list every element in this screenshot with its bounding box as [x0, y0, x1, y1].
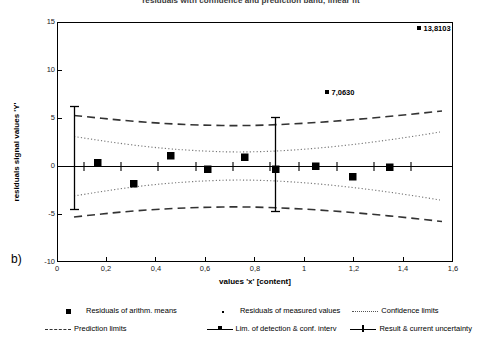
x-tick-label: 1 — [289, 264, 319, 273]
confidence-lower — [74, 180, 440, 200]
legend-item-confidence-limits[interactable]: Confidence limits — [352, 303, 438, 319]
legend-item-residuals-arithm-means[interactable]: Residuals of arithm. means — [57, 303, 177, 319]
legend-item-limit-of-detection[interactable]: Lim. of detection & conf. interv — [207, 321, 337, 337]
y-tick-label: 10 — [33, 66, 55, 74]
legend-item-prediction-limits[interactable]: Prediction limits — [45, 321, 127, 337]
x-tick-label: 0 — [42, 264, 72, 273]
dashed-line-icon — [45, 324, 71, 335]
y-axis-tick-labels: 15 10 5 0 -5 -10 — [31, 22, 55, 262]
confidence-upper — [74, 132, 440, 152]
y-axis-title: residuals signal values 'Y' — [6, 92, 28, 212]
dotted-line-icon — [352, 306, 378, 317]
legend-label: Lim. of detection & conf. interv — [236, 324, 337, 334]
solid-line-marker-icon — [207, 324, 233, 335]
legend-label: Residuals of measured values — [240, 306, 340, 316]
prediction-lower — [74, 207, 442, 222]
x-tick-label: 1,2 — [339, 264, 369, 273]
y-tick-label: 5 — [33, 114, 55, 122]
plot-svg — [57, 22, 453, 262]
axis-frame — [57, 22, 453, 262]
legend-row: Residuals of arithm. means Residuals of … — [0, 303, 502, 319]
legend-label: Prediction limits — [74, 324, 127, 334]
square-marker-icon — [57, 306, 83, 317]
data-label-max: 13,8103 — [417, 24, 451, 33]
x-axis-tick-labels: 0 0,2 0,4 0,6 0,8 1 1,2 1,4 1,6 — [57, 264, 453, 276]
x-axis-title: values 'x' [content] — [57, 277, 453, 286]
y-axis-title-text: residuals signal values 'Y' — [12, 103, 21, 202]
square-marker-icon — [417, 26, 421, 30]
legend-item-residuals-measured-values[interactable]: Residuals of measured values — [211, 303, 340, 319]
result-uncertainty-bar — [271, 117, 280, 212]
legend-label: Confidence limits — [381, 306, 438, 316]
prediction-upper — [74, 111, 442, 126]
limit-of-detection-bar — [70, 106, 79, 210]
y-tick-label: 0 — [33, 162, 55, 170]
plot-area — [57, 22, 453, 262]
legend-row: Prediction limits Lim. of detection & co… — [0, 321, 502, 337]
legend-label: Residuals of arithm. means — [86, 306, 177, 316]
x-tick-label: 0,8 — [240, 264, 270, 273]
x-tick-label: 0,6 — [190, 264, 220, 273]
y-tick-label: -5 — [33, 210, 55, 218]
chart-root: residuals with confidence and prediction… — [0, 0, 502, 344]
chart-title: residuals with confidence and prediction… — [0, 0, 502, 5]
x-tick-label: 0,2 — [91, 264, 121, 273]
x-tick-label: 1,4 — [388, 264, 418, 273]
x-tick-label: 1,6 — [438, 264, 468, 273]
legend-label: Result & current uncertainty — [379, 324, 472, 334]
arithm-mean-markers — [94, 22, 435, 188]
square-marker-icon — [325, 90, 329, 94]
dot-marker-icon — [211, 306, 237, 317]
solid-line-bar-icon — [350, 324, 376, 335]
legend-item-result-uncertainty[interactable]: Result & current uncertainty — [350, 321, 472, 337]
data-label-result: 7,0630 — [325, 88, 354, 97]
chart-legend: Residuals of arithm. means Residuals of … — [0, 300, 502, 344]
panel-letter: b) — [11, 252, 22, 266]
y-tick-label: 15 — [33, 18, 55, 26]
x-tick-label: 0,4 — [141, 264, 171, 273]
